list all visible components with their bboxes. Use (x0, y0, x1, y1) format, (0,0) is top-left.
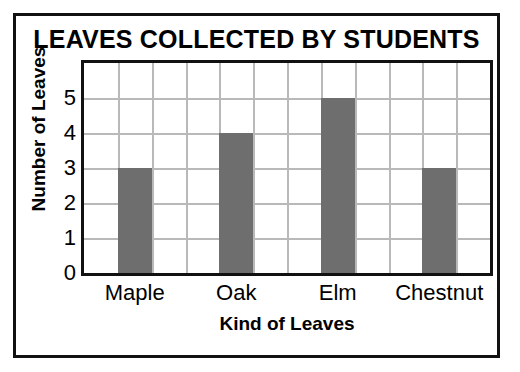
bar (118, 168, 152, 273)
x-axis-tick-labels: MapleOakElmChestnut (81, 280, 493, 310)
y-tick-label: 3 (54, 157, 76, 179)
x-tick-label: Maple (105, 280, 165, 306)
bar (422, 168, 456, 273)
bar (321, 98, 355, 273)
chart-title: LEAVES COLLECTED BY STUDENTS (16, 25, 497, 54)
gridline-vertical (355, 63, 357, 273)
x-tick-label: Oak (216, 280, 256, 306)
plot-area (81, 60, 493, 276)
x-tick-label: Chestnut (395, 280, 483, 306)
plot-inner (84, 63, 490, 273)
gridline-vertical (152, 63, 154, 273)
y-tick-label: 4 (54, 122, 76, 144)
gridline-vertical (389, 63, 391, 273)
y-tick-label: 5 (54, 87, 76, 109)
x-tick-label: Elm (319, 280, 357, 306)
y-tick-label: 0 (54, 262, 76, 284)
gridline-vertical (253, 63, 255, 273)
y-axis-tick-labels: 012345 (54, 60, 76, 276)
bar (219, 133, 253, 273)
gridline-vertical (456, 63, 458, 273)
gridline-vertical (287, 63, 289, 273)
chart-figure: LEAVES COLLECTED BY STUDENTS Number of L… (13, 13, 500, 358)
y-axis-title: Number of Leaves (28, 44, 50, 214)
gridline-vertical (186, 63, 188, 273)
x-axis-title: Kind of Leaves (81, 313, 493, 335)
y-tick-label: 1 (54, 227, 76, 249)
y-tick-label: 2 (54, 192, 76, 214)
